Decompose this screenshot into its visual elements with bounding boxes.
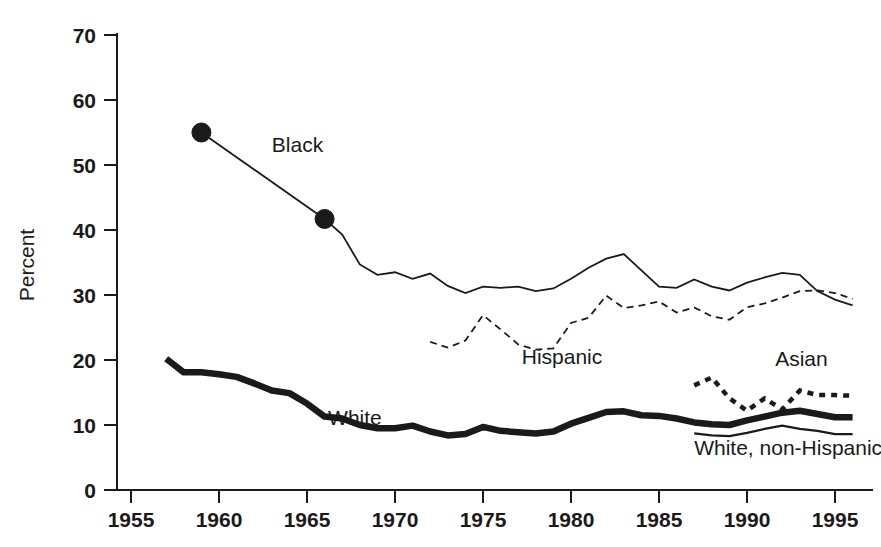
- y-tick-label: 60: [73, 89, 96, 112]
- series-label-white: White: [328, 406, 382, 429]
- y-tick-label: 0: [84, 479, 96, 502]
- series-label-white-non-hispanic: White, non-Hispanic: [694, 436, 881, 459]
- chart-container: Percent 010203040506070 1955196019651970…: [0, 0, 881, 547]
- series-line-white: [166, 359, 852, 436]
- x-tick-label: 1960: [196, 508, 243, 531]
- x-tick-label: 1955: [108, 508, 155, 531]
- y-axis-title: Percent: [15, 229, 38, 302]
- series-lines-group: [166, 133, 852, 437]
- data-point-marker-black: [315, 209, 334, 228]
- x-tick-label: 1985: [636, 508, 683, 531]
- x-tick-label: 1970: [372, 508, 419, 531]
- series-label-black: Black: [272, 133, 324, 156]
- y-tick-label: 30: [73, 284, 96, 307]
- data-point-marker-black: [192, 123, 211, 142]
- x-tick-label: 1975: [460, 508, 507, 531]
- y-tick-label: 20: [73, 349, 96, 372]
- x-tick-label: 1990: [724, 508, 771, 531]
- y-tick-label: 40: [73, 219, 96, 242]
- y-tick-label: 10: [73, 414, 96, 437]
- series-line-asian: [694, 378, 852, 411]
- x-tick-label: 1980: [548, 508, 595, 531]
- y-tick-label: 70: [73, 24, 96, 47]
- line-chart: Percent 010203040506070 1955196019651970…: [0, 0, 881, 547]
- x-tick-label: 1995: [812, 508, 859, 531]
- x-tick-label: 1965: [284, 508, 331, 531]
- y-tick-label: 50: [73, 154, 96, 177]
- series-line-hispanic: [430, 290, 852, 349]
- series-label-asian: Asian: [775, 347, 828, 370]
- series-label-hispanic: Hispanic: [522, 345, 603, 368]
- series-line-black: [201, 133, 852, 306]
- x-axis-ticks: 195519601965197019751980198519901995: [108, 490, 859, 531]
- y-axis-ticks: 010203040506070: [73, 24, 117, 502]
